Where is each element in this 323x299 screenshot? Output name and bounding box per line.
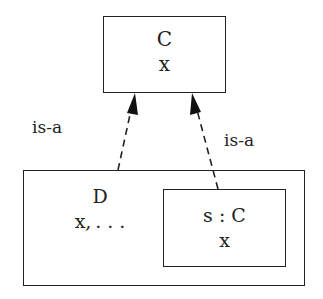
is-a-arrow-d-to-c [118,93,138,170]
diagram-canvas: C x D x, . . . s : C x is-a is-a [0,0,323,299]
is-a-arrow-s-to-c [190,93,218,189]
edge-label-d-to-c: is-a [32,117,62,137]
arrowhead-icon [127,93,138,115]
arrowhead-icon [190,93,201,115]
edge-label-s-to-c: is-a [224,130,254,150]
edges-layer [0,0,323,299]
